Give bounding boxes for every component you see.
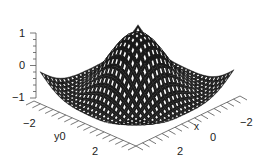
y-axis-label: y0 bbox=[54, 131, 66, 142]
y-tick-2: 2 bbox=[92, 146, 98, 157]
x-tick-0: 0 bbox=[210, 132, 216, 143]
x-tick-2: 2 bbox=[177, 146, 183, 157]
x-tick-neg2: −2 bbox=[240, 117, 253, 128]
surface-mesh bbox=[40, 25, 234, 125]
z-tick-neg1: −1 bbox=[12, 92, 25, 103]
z-tick-1: 1 bbox=[19, 28, 25, 39]
x-axis-label: x bbox=[194, 121, 199, 132]
z-tick-0: 0 bbox=[19, 60, 25, 71]
surface-plot bbox=[0, 0, 265, 168]
y-tick-neg2: −2 bbox=[23, 118, 36, 129]
